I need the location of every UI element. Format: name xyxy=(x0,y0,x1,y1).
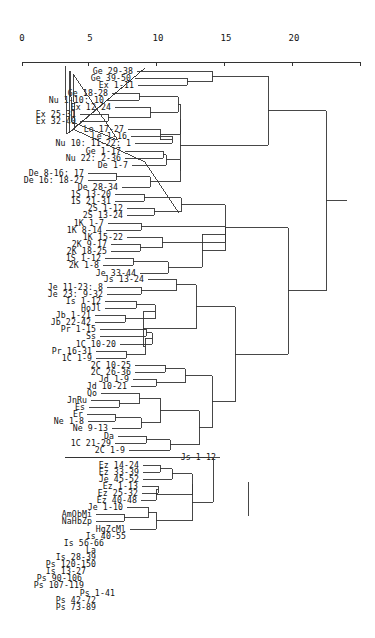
leaf-label: Ex 32-40 xyxy=(36,116,76,126)
axis-tick-label: 20 xyxy=(289,33,300,43)
dendrogram-branch xyxy=(105,301,136,308)
leaf-label: Ex 12-24 xyxy=(71,102,111,112)
axis-tick-label: 5 xyxy=(87,33,92,43)
dendrogram-svg: 05101520Ge 29-38Ge 39-50Ex 1-11Ge 18-28N… xyxy=(0,0,375,638)
dendrogram-branch xyxy=(124,507,148,518)
dendrogram-branch xyxy=(96,351,126,358)
dendrogram-branch xyxy=(133,262,168,274)
dendrogram-chart: 05101520Ge 29-38Ge 39-50Ex 1-11Ge 18-28N… xyxy=(0,0,375,638)
dendrogram-branch xyxy=(143,469,172,480)
dendrogram-branch xyxy=(135,78,187,85)
dendrogram-branch xyxy=(130,512,156,529)
dendrogram-branch xyxy=(103,258,133,265)
leaf-label: 2K 1-8 xyxy=(69,260,99,270)
dendrogram-branch xyxy=(144,198,181,212)
dendrogram-branch xyxy=(107,287,141,294)
dendrogram-branch xyxy=(125,151,163,158)
dendrogram-branch xyxy=(132,155,166,166)
axis-tick-label: 0 xyxy=(19,33,24,43)
dendrogram-branch xyxy=(141,279,176,291)
dendrogram-branch xyxy=(131,379,156,386)
dendrogram-branch xyxy=(180,76,268,145)
dendrogram-branch xyxy=(156,369,185,383)
dendrogram-branch xyxy=(181,205,225,251)
leaf-label: Ps 73-89 xyxy=(56,602,96,612)
dendrogram-branch xyxy=(150,160,180,182)
dendrogram-branch xyxy=(129,440,170,451)
dendrogram-branch xyxy=(143,285,196,329)
dendrogram-branch xyxy=(268,111,326,291)
dendrogram-branch xyxy=(156,484,192,520)
dendrogram-branch xyxy=(101,393,139,404)
dendrogram-branch xyxy=(127,237,162,248)
leaf-label: Js 13-24 xyxy=(104,274,144,284)
dendrogram-branch xyxy=(115,194,144,201)
dendrogram-branch xyxy=(116,177,150,188)
dendrogram-branch xyxy=(87,414,115,421)
axis-tick-label: 10 xyxy=(153,33,164,43)
dendrogram-branch xyxy=(96,514,124,521)
dendrogram-branch xyxy=(89,400,119,407)
leaf-label: NaHbZp xyxy=(62,516,92,526)
dendrogram-branch xyxy=(185,376,212,428)
leaf-label: 1C 1-9 xyxy=(62,353,92,363)
dendrogram-branch xyxy=(108,93,139,100)
dendrogram-branch xyxy=(100,329,146,336)
leaf-label: De 1-7 xyxy=(98,160,128,170)
dendrogram-branch xyxy=(112,418,141,429)
dendrogram-branch xyxy=(115,436,146,443)
dendrogram-branch xyxy=(95,315,125,322)
dendrogram-branch xyxy=(127,208,154,215)
dendrogram-branch xyxy=(65,457,220,502)
dendrogram-branch xyxy=(143,465,160,472)
dendrogram-branch xyxy=(88,173,116,180)
dendrogram-branch xyxy=(141,490,158,501)
leaf-label: Qo xyxy=(87,388,97,398)
dendrogram-branch xyxy=(108,107,150,118)
dendrogram-branch xyxy=(111,244,140,251)
dendrogram-branch xyxy=(160,104,180,134)
axis-tick-label: 15 xyxy=(221,33,232,43)
dendrogram-branch xyxy=(156,474,192,495)
leaf-label: 2C 1-9 xyxy=(95,445,125,455)
dendrogram-branch xyxy=(126,338,152,354)
dendrogram-branch xyxy=(106,223,141,230)
leaf-label: Ne 9-13 xyxy=(73,423,108,433)
dendrogram-branch xyxy=(139,398,160,423)
dendrogram-branch xyxy=(225,228,288,355)
leaf-label: De 16: 18-27 xyxy=(24,175,84,185)
dendrogram-branch xyxy=(137,71,212,82)
leaf-label: Je 1-10 xyxy=(88,502,123,512)
scale-axis xyxy=(22,62,360,66)
dendrogram-branch xyxy=(196,307,235,402)
dendrogram-branch xyxy=(139,97,178,113)
leaf-label: Ps 107-119 xyxy=(34,580,84,590)
dendrogram-branch xyxy=(135,365,165,372)
leaf-label: Is 56-66 xyxy=(64,538,104,548)
